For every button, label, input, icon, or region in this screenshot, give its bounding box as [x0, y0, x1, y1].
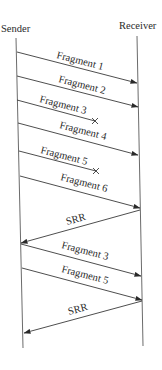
message-label: Fragment 4: [58, 119, 108, 142]
sequence-diagram: Sender Receiver Fragment 1 Fragment 2 Fr…: [0, 0, 162, 370]
message-fragment-3-lost: Fragment 3: [17, 93, 98, 124]
message-srr-2: SRR: [24, 301, 142, 333]
message-fragment-5-lost: Fragment 5: [19, 144, 99, 174]
message-label: Fragment 6: [59, 171, 108, 194]
message-label: SRR: [65, 211, 87, 227]
sender-label: Sender: [1, 23, 31, 34]
message-fragment-6: Fragment 6: [20, 171, 140, 208]
message-srr-1: SRR: [21, 210, 140, 243]
lost-x-icon: [93, 168, 99, 174]
message-fragment-5-resend: Fragment 5: [22, 263, 142, 300]
message-label: SRR: [67, 301, 89, 317]
message-label: Fragment 5: [39, 144, 88, 167]
lost-x-icon: [92, 118, 98, 124]
message-label: Fragment 3: [60, 239, 109, 262]
message-fragment-4: Fragment 4: [18, 119, 138, 155]
message-label: Fragment 5: [60, 263, 109, 286]
receiver-label: Receiver: [119, 20, 157, 31]
sender-lifeline: [16, 38, 23, 348]
